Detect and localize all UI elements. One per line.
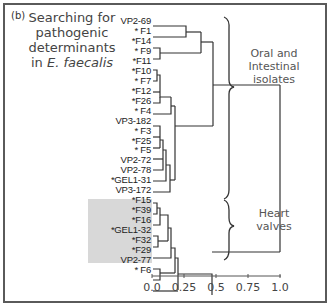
group-label-oral-intestinal: Oral and Intestinal isolates [236,47,312,86]
group-label-line: Intestinal [236,60,312,73]
group-label-line: Oral and [236,47,312,60]
axis-tick-label: 0.25 [172,281,197,294]
group-label-line: isolates [236,73,312,86]
group-label-line: Heart [236,207,312,220]
group-label-heart-valves: Heart valves [236,207,312,233]
x-axis [152,274,281,278]
group-label-line: valves [236,220,312,233]
axis-tick-label: 0.5 [207,281,225,294]
axis-tick-label: 0.75 [236,281,261,294]
heart-group-brace-icon [224,200,234,260]
axis-tick-label: 0.0 [143,281,161,294]
axis-tick-label: 1.0 [271,281,289,294]
oral-group-brace-icon [224,17,234,199]
